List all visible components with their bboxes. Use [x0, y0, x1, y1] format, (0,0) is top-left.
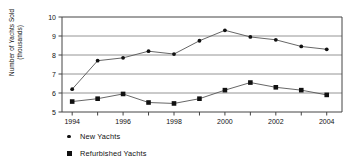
- yacht-sales-line-chart: Number of Yachts Sold (thousands) 567891…: [0, 0, 352, 164]
- gridlines: [62, 36, 342, 93]
- legend-item-new-yachts: New Yachts: [62, 128, 262, 145]
- svg-text:2000: 2000: [217, 118, 233, 125]
- svg-text:6: 6: [52, 90, 56, 97]
- svg-text:2004: 2004: [319, 118, 335, 125]
- svg-text:7: 7: [52, 71, 56, 78]
- x-axis-ticks: 199419961998200020022004: [64, 112, 334, 125]
- svg-text:8: 8: [52, 52, 56, 59]
- svg-text:9: 9: [52, 33, 56, 40]
- square-marker-icon: [62, 151, 76, 156]
- y-axis-ticks: 5678910: [48, 14, 62, 116]
- chart-legend: New Yachts Refurbished Yachts: [62, 128, 262, 162]
- svg-text:1994: 1994: [64, 118, 80, 125]
- legend-label-refurbished-yachts: Refurbished Yachts: [76, 149, 147, 158]
- svg-text:1998: 1998: [166, 118, 182, 125]
- svg-text:5: 5: [52, 109, 56, 116]
- svg-text:1996: 1996: [115, 118, 131, 125]
- legend-item-refurbished-yachts: Refurbished Yachts: [62, 145, 262, 162]
- svg-text:10: 10: [48, 14, 56, 21]
- series-markers: [70, 28, 329, 105]
- circle-marker-icon: [62, 135, 76, 139]
- svg-text:2002: 2002: [268, 118, 284, 125]
- legend-label-new-yachts: New Yachts: [76, 132, 120, 141]
